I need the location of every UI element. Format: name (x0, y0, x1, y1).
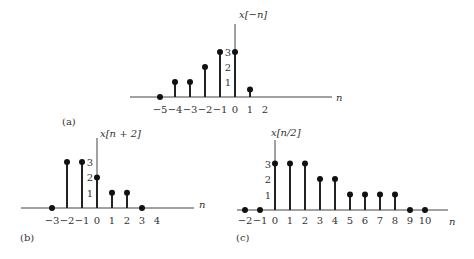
stem-marker (392, 192, 398, 198)
y-tick-label: 2 (265, 174, 271, 185)
x-tick-label: −2 (60, 215, 75, 226)
stem-marker (217, 49, 223, 55)
x-tick-label: 0 (272, 215, 278, 226)
panel-c-x-n-over-2: x[n/2]n(c)123−2−1012345678910 (236, 127, 455, 243)
stem-marker (124, 190, 130, 196)
panel-label: (c) (236, 232, 250, 243)
x-tick-label: 1 (287, 215, 293, 226)
y-tick-label: 1 (225, 77, 231, 88)
x-tick-label: 1 (109, 215, 115, 226)
x-axis-label: n (199, 199, 205, 210)
x-tick-label: −4 (168, 104, 183, 115)
stem-marker (422, 207, 428, 213)
stem-marker (362, 192, 368, 198)
stem-marker (257, 207, 263, 213)
stem-marker (317, 176, 323, 182)
x-tick-label: 1 (247, 104, 253, 115)
y-tick-label: 1 (87, 188, 93, 199)
x-tick-label: 3 (139, 215, 145, 226)
x-tick-label: 0 (232, 104, 238, 115)
x-tick-label: 3 (317, 215, 323, 226)
x-tick-label: 7 (377, 215, 383, 226)
stem-marker (49, 205, 55, 211)
y-tick-label: 3 (225, 47, 231, 58)
stem-marker (332, 176, 338, 182)
x-tick-label: 4 (154, 215, 160, 226)
x-tick-label: 2 (262, 104, 268, 115)
x-tick-label: −2 (238, 215, 253, 226)
y-tick-label: 2 (87, 172, 93, 183)
stem-marker (232, 49, 238, 55)
panel-label: (a) (62, 116, 76, 127)
stem-marker (94, 174, 100, 180)
stem-marker (247, 87, 253, 93)
stem-marker (202, 64, 208, 70)
stem-marker (64, 159, 70, 165)
stem-marker (242, 207, 248, 213)
stem-marker (302, 161, 308, 167)
y-tick-label: 1 (265, 190, 271, 201)
x-tick-label: −3 (45, 215, 60, 226)
y-tick-label: 3 (265, 159, 271, 170)
stem-plot-figure: x[−n]n(a)123−5−4−3−2−1012 x[n + 2]n(b)12… (0, 0, 474, 259)
x-tick-label: 4 (332, 215, 338, 226)
x-tick-label: 0 (94, 215, 100, 226)
x-tick-label: 2 (124, 215, 130, 226)
plot-title: x[n + 2] (100, 128, 141, 139)
x-tick-label: 2 (302, 215, 308, 226)
stem-marker (407, 207, 413, 213)
x-tick-label: −5 (153, 104, 168, 115)
x-tick-label: −3 (183, 104, 198, 115)
x-tick-label: −1 (75, 215, 90, 226)
x-tick-label: 5 (347, 215, 353, 226)
x-tick-label: −1 (213, 104, 228, 115)
y-tick-label: 2 (225, 62, 231, 73)
stem-marker (272, 161, 278, 167)
stem-marker (157, 94, 163, 100)
stem-marker (347, 192, 353, 198)
stem-marker (187, 79, 193, 85)
stem-marker (172, 79, 178, 85)
y-tick-label: 3 (87, 157, 93, 168)
x-tick-label: −2 (198, 104, 213, 115)
panel-label: (b) (20, 232, 34, 243)
plot-title: x[−n] (239, 9, 267, 20)
stem-marker (139, 205, 145, 211)
stem-marker (377, 192, 383, 198)
stem-marker (287, 161, 293, 167)
x-axis-label: n (336, 92, 342, 103)
panel-a-x-minus-n: x[−n]n(a)123−5−4−3−2−1012 (62, 9, 342, 127)
x-axis-label: n (449, 216, 455, 227)
x-tick-label: −1 (253, 215, 268, 226)
stem-marker (79, 159, 85, 165)
x-tick-label: 10 (419, 215, 432, 226)
x-tick-label: 6 (362, 215, 368, 226)
stem-marker (109, 190, 115, 196)
panel-b-x-n-plus-2: x[n + 2]n(b)123−3−2−101234 (20, 128, 205, 243)
x-tick-label: 8 (392, 215, 398, 226)
x-tick-label: 9 (407, 215, 413, 226)
plot-title: x[n/2] (271, 127, 301, 138)
